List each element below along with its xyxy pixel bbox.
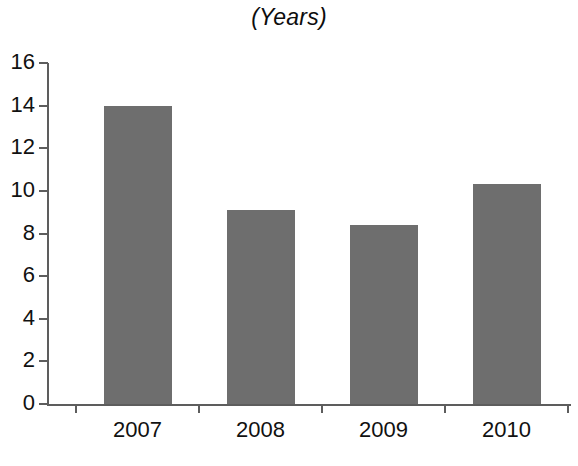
bar-2007 <box>104 106 172 404</box>
y-tick-10 <box>39 190 48 192</box>
x-tick-2 <box>321 404 323 413</box>
x-tick-3 <box>444 404 446 413</box>
x-category-label-2010: 2010 <box>447 418 567 442</box>
y-tick-label-12: 12 <box>0 136 35 158</box>
bar-2009 <box>350 225 418 404</box>
y-axis-line <box>47 63 49 406</box>
plot-area <box>47 63 571 405</box>
y-tick-4 <box>39 318 48 320</box>
y-tick-label-14: 14 <box>0 94 35 116</box>
y-tick-label-2: 2 <box>0 349 35 371</box>
y-tick-16 <box>39 62 48 64</box>
x-category-label-2008: 2008 <box>201 418 321 442</box>
y-tick-label-4: 4 <box>0 307 35 329</box>
x-category-label-2009: 2009 <box>324 418 444 442</box>
x-tick-0 <box>75 404 77 413</box>
y-tick-12 <box>39 147 48 149</box>
y-tick-label-8: 8 <box>0 222 35 244</box>
chart-title: (Years) <box>0 4 578 31</box>
x-category-label-2007: 2007 <box>78 418 198 442</box>
x-axis-line <box>47 404 571 406</box>
x-tick-4 <box>567 404 569 413</box>
y-tick-label-10: 10 <box>0 179 35 201</box>
bar-2008 <box>227 210 295 404</box>
y-tick-8 <box>39 233 48 235</box>
y-tick-label-0: 0 <box>0 392 35 414</box>
x-tick-1 <box>198 404 200 413</box>
y-tick-0 <box>39 403 48 405</box>
bar-2010 <box>473 184 541 404</box>
y-tick-label-6: 6 <box>0 264 35 286</box>
y-tick-label-16: 16 <box>0 51 35 73</box>
y-tick-2 <box>39 360 48 362</box>
bar-chart: (Years) 0246810121416 2007200820092010 <box>0 0 578 466</box>
y-tick-6 <box>39 275 48 277</box>
y-tick-14 <box>39 105 48 107</box>
